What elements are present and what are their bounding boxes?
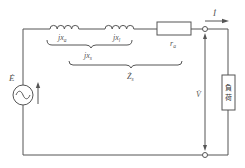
- brace-zs: [69, 61, 182, 68]
- label-current: İ: [212, 8, 217, 18]
- inductor-xl-icon: [105, 25, 134, 29]
- label-emf: Ė: [8, 73, 15, 83]
- label-load-2: 荷: [225, 93, 232, 102]
- circuit-diagram: jxa jxl ra jxs Żs Ė İ V̇ 負 荷: [0, 0, 245, 168]
- label-jxs: jxs: [83, 51, 92, 61]
- label-jxl: jxl: [112, 33, 121, 43]
- emf-arrowhead-icon: [36, 82, 40, 88]
- voltage-arrowhead-bottom-icon: [203, 145, 207, 151]
- label-zs: Żs: [127, 72, 134, 82]
- resistor-ra-icon: [157, 22, 191, 35]
- load-box-icon: [222, 75, 235, 110]
- label-load-1: 負: [225, 83, 232, 92]
- label-voltage: V̇: [196, 90, 202, 99]
- inductor-xa-icon: [50, 25, 79, 29]
- sine-wave-icon: [16, 91, 30, 99]
- terminal-top-icon: [203, 27, 208, 32]
- terminal-bottom-icon: [203, 153, 208, 158]
- label-jxa: jxa: [57, 33, 67, 43]
- wire-top-right: [208, 29, 229, 75]
- wire-bottom: [23, 105, 203, 155]
- wire-right-lower: [208, 110, 229, 155]
- voltage-arrowhead-top-icon: [203, 33, 207, 39]
- current-arrowhead-icon: [222, 19, 229, 23]
- label-ra: ra: [170, 39, 176, 49]
